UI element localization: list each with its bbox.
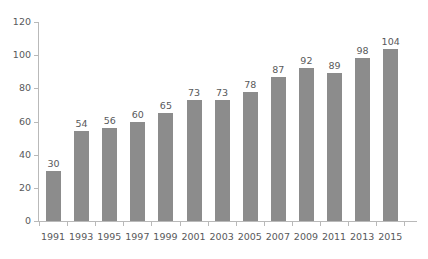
bar-value-label: 60 bbox=[123, 110, 153, 120]
x-axis-tick bbox=[123, 222, 124, 226]
bar bbox=[158, 113, 173, 221]
x-axis-tick bbox=[320, 222, 321, 226]
y-axis-tick-label: 100 bbox=[0, 50, 31, 60]
bar-value-label: 87 bbox=[263, 65, 293, 75]
y-axis-tick bbox=[34, 155, 38, 156]
x-axis-tick bbox=[376, 222, 377, 226]
bar-chart: 020406080100120 199119931995199719992001… bbox=[0, 0, 428, 259]
bar-value-label: 56 bbox=[95, 116, 125, 126]
bar-value-label: 89 bbox=[320, 61, 350, 71]
x-axis-tick bbox=[180, 222, 181, 226]
y-axis-tick-label: 20 bbox=[0, 183, 31, 193]
x-axis-tick bbox=[292, 222, 293, 226]
x-axis-tick bbox=[67, 222, 68, 226]
bar-value-label: 54 bbox=[67, 119, 97, 129]
y-axis-tick-label: 80 bbox=[0, 83, 31, 93]
bar-value-label: 104 bbox=[376, 37, 406, 47]
y-axis-tick bbox=[34, 221, 38, 222]
bar bbox=[299, 68, 314, 221]
x-axis-tick bbox=[404, 222, 405, 226]
y-axis-tick-label: 40 bbox=[0, 150, 31, 160]
bar bbox=[102, 128, 117, 221]
bar bbox=[243, 92, 258, 221]
bar bbox=[130, 122, 145, 222]
y-axis-line bbox=[38, 22, 39, 222]
bar bbox=[383, 49, 398, 221]
bar bbox=[271, 77, 286, 221]
bar-value-label: 92 bbox=[291, 56, 321, 66]
x-axis-tick bbox=[208, 222, 209, 226]
y-axis-tick bbox=[34, 88, 38, 89]
bar-value-label: 73 bbox=[207, 88, 237, 98]
bar-value-label: 73 bbox=[179, 88, 209, 98]
y-axis-tick-label: 120 bbox=[0, 17, 31, 27]
bar bbox=[215, 100, 230, 221]
bar bbox=[187, 100, 202, 221]
bar bbox=[327, 73, 342, 221]
y-axis-tick-label: 0 bbox=[0, 216, 31, 226]
x-axis-tick bbox=[151, 222, 152, 226]
bar bbox=[355, 58, 370, 221]
bar bbox=[74, 131, 89, 221]
plot-area: 020406080100120 199119931995199719992001… bbox=[0, 0, 428, 259]
bar bbox=[46, 171, 61, 221]
y-axis-tick bbox=[34, 188, 38, 189]
x-axis-tick bbox=[39, 222, 40, 226]
bar-value-label: 98 bbox=[348, 46, 378, 56]
y-axis-tick-label: 60 bbox=[0, 117, 31, 127]
x-axis-tick bbox=[95, 222, 96, 226]
x-axis-tick bbox=[264, 222, 265, 226]
x-axis-tick-label: 2015 bbox=[374, 231, 406, 242]
x-axis-tick bbox=[348, 222, 349, 226]
bar-value-label: 78 bbox=[235, 80, 265, 90]
x-axis-tick bbox=[236, 222, 237, 226]
bar-value-label: 65 bbox=[151, 101, 181, 111]
y-axis-tick bbox=[34, 122, 38, 123]
y-axis-tick bbox=[34, 22, 38, 23]
bar-value-label: 30 bbox=[39, 159, 69, 169]
y-axis-tick bbox=[34, 55, 38, 56]
